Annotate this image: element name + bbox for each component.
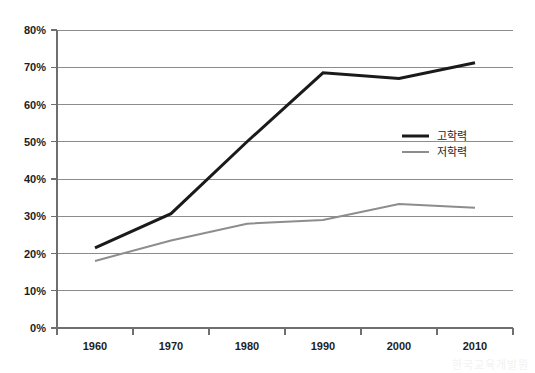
y-axis-tick-label: 20%	[24, 248, 46, 260]
legend-label-high-education: 고학력	[437, 130, 467, 143]
x-axis-tick-label: 1990	[311, 340, 335, 352]
scan-bleed-artifact: 한국교육개발원	[452, 356, 529, 372]
series-line-high-education	[95, 63, 475, 248]
x-axis-tick-label: 1970	[159, 340, 183, 352]
y-axis-tick-label: 30%	[24, 210, 46, 222]
y-axis-tick-label: 50%	[24, 136, 46, 148]
x-axis-tick-label: 2010	[463, 340, 487, 352]
legend: 고학력저학력	[402, 130, 467, 159]
line-chart: 80%70%60%50%40%30%20%10%0%19601970198019…	[0, 0, 535, 373]
series-line-low-education	[95, 204, 475, 261]
y-axis-tick-label: 60%	[24, 99, 46, 111]
legend-label-low-education: 저학력	[437, 146, 467, 159]
x-axis-tick-label: 1960	[83, 340, 107, 352]
x-axis-tick-label: 2000	[387, 340, 411, 352]
y-axis-tick-label: 80%	[24, 24, 46, 36]
y-axis-tick-label: 40%	[24, 173, 46, 185]
chart-container: 80%70%60%50%40%30%20%10%0%19601970198019…	[0, 0, 535, 373]
y-axis-tick-label: 10%	[24, 285, 46, 297]
y-axis-tick-label: 0%	[30, 322, 46, 334]
x-axis-tick-label: 1980	[235, 340, 259, 352]
y-axis-tick-label: 70%	[24, 61, 46, 73]
